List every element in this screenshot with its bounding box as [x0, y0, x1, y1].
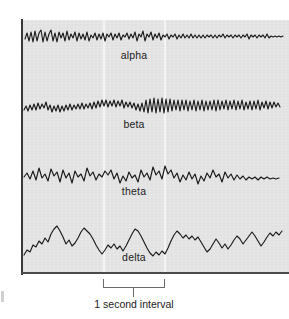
edge-crop-artifact: [1, 291, 4, 302]
trace-theta: [24, 166, 279, 184]
trace-beta: [24, 98, 280, 113]
interval-bracket: [103, 279, 165, 288]
trace-alpha: [25, 30, 283, 42]
trace-label-alpha: alpha: [74, 49, 194, 61]
waveform-traces: [0, 0, 289, 319]
interval-bracket-stem: [133, 288, 134, 297]
eeg-waveform-figure: alpha beta theta delta 1 second interval: [0, 0, 289, 319]
trace-label-theta: theta: [74, 185, 194, 197]
interval-caption: 1 second interval: [44, 298, 224, 310]
trace-label-delta: delta: [74, 251, 194, 263]
trace-label-beta: beta: [74, 118, 194, 130]
